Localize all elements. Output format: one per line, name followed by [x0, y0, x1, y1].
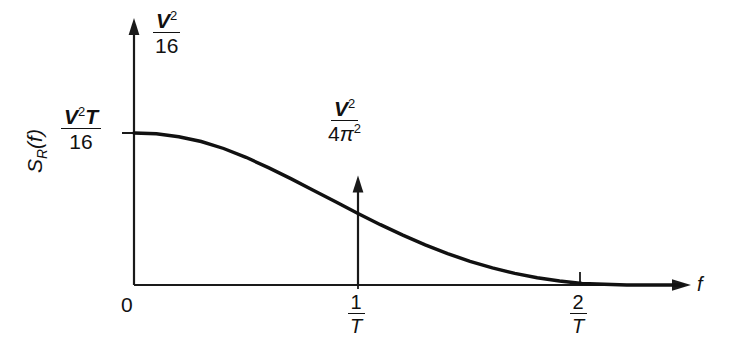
- x-axis-title: f: [697, 274, 703, 294]
- impulse-weight-label: V2 4π2: [325, 98, 364, 144]
- spectral-density-curve: [134, 133, 683, 285]
- argument-f: (f): [23, 129, 46, 149]
- denominator-T: T: [569, 314, 587, 336]
- x-tick-label-2-over-T: 2 T: [569, 292, 587, 336]
- exponent-2: 2: [170, 8, 177, 23]
- numerator-2: 2: [570, 292, 587, 314]
- x-axis-group: [134, 272, 691, 291]
- denominator-16: 16: [66, 129, 95, 152]
- denominator-16: 16: [152, 33, 181, 56]
- coefficient-4: 4: [328, 122, 340, 145]
- x-tick-label-1-over-T: 1 T: [347, 292, 365, 336]
- y-axis-title: SR(f): [24, 106, 50, 196]
- y-axis-group: [122, 18, 139, 285]
- y-axis-arrowhead: [129, 18, 140, 35]
- impulse-arrow-1-over-T: [353, 176, 364, 285]
- exponent-2: 2: [354, 121, 361, 136]
- denominator-T: T: [347, 314, 365, 336]
- figure-canvas: V2 16 V2T 16 V2 4π2 SR(f) 0 1 T 2 T f: [0, 0, 738, 359]
- plot-svg: [0, 0, 738, 359]
- symbol-pi: π: [340, 122, 354, 145]
- numerator-1: 1: [348, 292, 365, 314]
- y-axis-origin-value-label: V2T 16: [61, 106, 101, 152]
- symbol-T: T: [85, 105, 98, 128]
- subscript-R: R: [34, 149, 50, 159]
- exponent-2: 2: [348, 96, 355, 111]
- symbol-S: S: [23, 159, 46, 173]
- y-axis-top-annotation: V2 16: [152, 10, 181, 56]
- x-tick-label-0: 0: [121, 294, 133, 315]
